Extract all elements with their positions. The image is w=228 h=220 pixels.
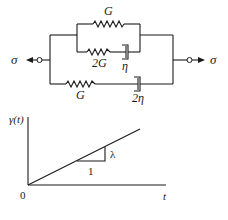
viscoelastic-model-diagram: σ G 2G η <box>0 0 228 220</box>
origin-label: 0 <box>20 189 26 201</box>
right-arrow-icon <box>198 57 205 63</box>
spring-2G-label: 2G <box>92 56 107 70</box>
left-arrow-icon <box>26 57 33 63</box>
slope-rise-label: λ <box>110 148 116 160</box>
spring-G-top <box>77 21 140 27</box>
spring-G-bottom <box>50 81 138 87</box>
strain-line <box>28 129 140 185</box>
strain-graph: γ(t) t 0 1 λ <box>9 113 167 202</box>
x-axis-label: t <box>163 190 167 202</box>
dashpot-eta-label: η <box>122 59 128 73</box>
dashpot-2eta-label: 2η <box>132 91 144 105</box>
right-stress-label: σ <box>210 52 217 67</box>
dashpot-2eta <box>134 77 173 91</box>
y-axis-label: γ(t) <box>9 113 24 126</box>
mechanical-model: σ G 2G η <box>11 4 217 105</box>
spring-G-top-label: G <box>104 4 113 18</box>
right-terminal-node <box>187 58 192 63</box>
slope-run-label: 1 <box>88 165 94 177</box>
spring-2G <box>77 49 126 55</box>
spring-G-bottom-label: G <box>76 88 85 102</box>
left-terminal-node <box>37 58 42 63</box>
left-stress-label: σ <box>11 52 18 67</box>
